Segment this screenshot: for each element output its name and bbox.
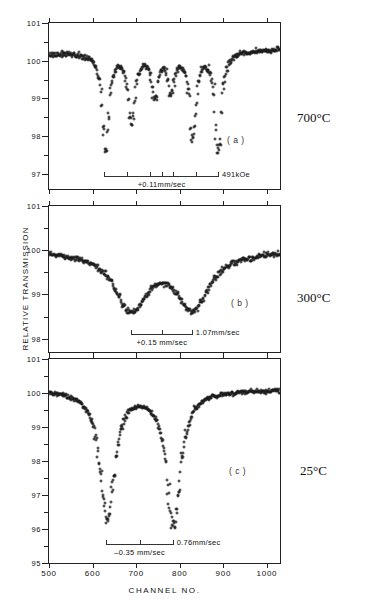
x-tick-top — [267, 201, 268, 206]
y-tick-minor — [44, 272, 49, 273]
data-point — [165, 71, 168, 74]
y-tick-major — [42, 174, 49, 175]
y-tick-label: 99 — [31, 423, 41, 432]
data-point — [104, 510, 107, 513]
data-point — [202, 300, 205, 303]
scale-bar-midtick — [140, 540, 141, 544]
y-tick-major — [42, 359, 49, 360]
x-tick-top — [93, 354, 94, 359]
data-point — [126, 83, 129, 86]
data-point — [186, 83, 189, 86]
y-tick-label: 101 — [27, 202, 41, 211]
temperature-label-a: 700°C — [297, 110, 330, 126]
data-point — [179, 460, 182, 463]
data-point — [109, 505, 112, 508]
data-point — [215, 124, 218, 127]
data-point — [95, 65, 98, 68]
y-tick-major — [42, 339, 49, 340]
data-point — [171, 88, 174, 91]
panel-tag-c: ( c ) — [229, 466, 246, 476]
plot-area-c — [49, 359, 280, 563]
data-point — [132, 118, 135, 121]
x-tick-top — [93, 201, 94, 206]
y-tick-minor — [44, 42, 49, 43]
x-tick-top — [49, 18, 50, 23]
panel-c-25C: ( c ) 9596979899100101500600700800900100… — [48, 358, 281, 564]
data-point — [174, 75, 177, 78]
data-point — [173, 84, 176, 87]
data-point — [158, 74, 161, 77]
y-tick-major — [42, 23, 49, 24]
data-point — [150, 80, 153, 83]
y-tick-label: 101 — [27, 355, 41, 364]
data-point — [165, 478, 168, 481]
data-point — [174, 520, 177, 523]
x-tick — [136, 189, 137, 194]
data-point — [167, 492, 170, 495]
scale-bar-midtick — [162, 172, 163, 176]
x-tick-top — [223, 354, 224, 359]
data-point — [134, 97, 137, 100]
data-point — [102, 494, 105, 497]
data-point — [214, 278, 217, 281]
data-point — [213, 83, 216, 86]
data-point — [100, 489, 103, 492]
data-point — [219, 143, 222, 146]
x-tick-top — [136, 201, 137, 206]
data-point — [131, 114, 134, 117]
scale-bar-b: 1.07mm/sec+0.15 mm/sec — [131, 334, 193, 335]
y-tick-major — [42, 529, 49, 530]
x-tick-top — [267, 354, 268, 359]
x-tick — [267, 189, 268, 194]
data-point — [111, 80, 114, 83]
scale-bar-subtick — [173, 172, 174, 176]
data-point — [196, 84, 199, 87]
data-point — [107, 517, 110, 520]
data-point — [117, 443, 120, 446]
data-point — [165, 67, 168, 70]
data-point — [119, 433, 122, 436]
data-point — [99, 84, 102, 87]
data-point — [101, 104, 104, 107]
plot-area-b — [49, 206, 280, 352]
data-point — [108, 118, 111, 121]
data-point — [176, 507, 179, 510]
data-point — [109, 87, 112, 90]
data-point — [96, 449, 99, 452]
data-point — [132, 111, 135, 114]
scale-bar-midtick — [162, 330, 163, 334]
data-point — [198, 79, 201, 82]
y-tick-minor — [44, 376, 49, 377]
data-point — [187, 88, 190, 91]
data-point — [100, 480, 103, 483]
data-point — [219, 137, 222, 140]
y-tick-minor — [44, 80, 49, 81]
y-tick-label: 100 — [27, 389, 41, 398]
data-point — [169, 511, 172, 514]
data-point — [108, 94, 111, 97]
plot-area-a — [49, 23, 280, 189]
y-tick-major — [42, 427, 49, 428]
mossbauer-figure: RELATIVE TRANSMISSION ( a ) 979899100101… — [0, 0, 369, 608]
scale-bar-cap — [218, 172, 219, 177]
data-point — [127, 89, 130, 92]
x-tick-label: 600 — [85, 569, 100, 578]
data-point — [207, 289, 210, 292]
data-point — [182, 446, 185, 449]
x-tick — [223, 563, 224, 568]
x-tick-top — [180, 354, 181, 359]
y-tick-label: 98 — [31, 457, 41, 466]
y-tick-major — [42, 98, 49, 99]
data-point — [199, 74, 202, 77]
temperature-label-b: 300°C — [297, 290, 330, 306]
data-point — [138, 73, 141, 76]
x-tick-top — [180, 201, 181, 206]
data-point — [210, 71, 213, 74]
y-tick-minor — [44, 410, 49, 411]
scale-bar-cap — [173, 540, 174, 545]
data-point — [223, 80, 226, 83]
data-point — [101, 469, 104, 472]
y-tick-label: 101 — [27, 19, 41, 28]
data-point — [196, 309, 199, 312]
data-point — [99, 473, 102, 476]
